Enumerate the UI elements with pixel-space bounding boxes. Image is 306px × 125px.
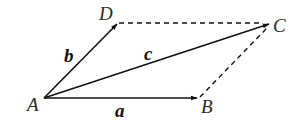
point-label-c: C bbox=[273, 15, 286, 36]
parallelogram-diagram: D C A B b c a bbox=[0, 0, 306, 125]
vector-label-b: b bbox=[64, 45, 74, 66]
dashed-segment-bc bbox=[200, 27, 268, 97]
vector-b bbox=[44, 24, 117, 98]
vector-label-c: c bbox=[144, 43, 153, 64]
point-label-a: A bbox=[25, 94, 39, 115]
point-label-b: B bbox=[201, 96, 213, 117]
vector-c bbox=[44, 24, 269, 98]
vector-label-a: a bbox=[115, 100, 125, 121]
point-label-d: D bbox=[98, 3, 113, 24]
